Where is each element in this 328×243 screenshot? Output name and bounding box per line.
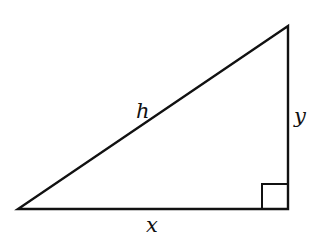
background <box>0 0 328 243</box>
vertical-leg-label: y <box>293 104 307 128</box>
hypotenuse-label: h <box>136 99 150 123</box>
right-triangle-diagram: h y x <box>0 0 328 243</box>
horizontal-leg-label: x <box>146 213 158 237</box>
